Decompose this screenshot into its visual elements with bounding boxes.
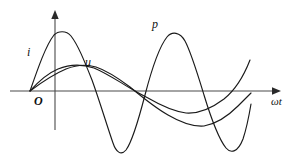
curve-label-p: p [152,18,158,30]
waveform-plot [0,0,294,168]
x-axis-arrowhead [272,87,281,95]
ac-power-waveform-figure: i u p O ωt [0,0,294,168]
y-axis-arrowhead [51,10,58,19]
curve-label-u: u [85,56,91,68]
origin-label: O [34,95,43,107]
curve-label-i: i [27,46,30,58]
curve-p [30,32,251,153]
curve-i [30,60,250,113]
x-axis-label: ωt [271,96,282,107]
curve-u [30,65,251,126]
